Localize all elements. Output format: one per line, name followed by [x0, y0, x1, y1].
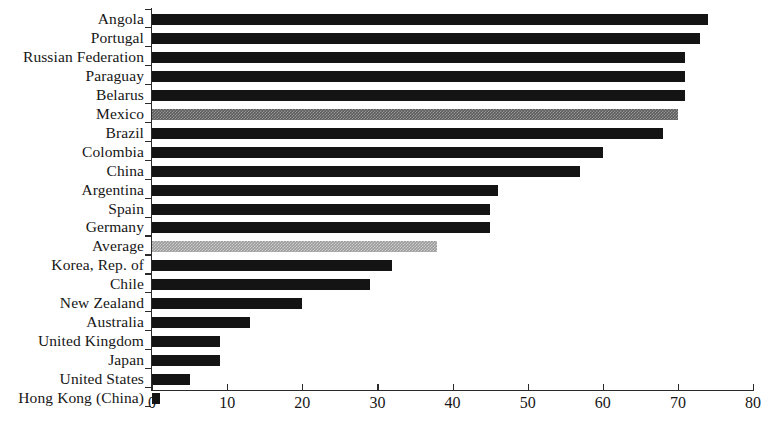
category-label: Brazil	[0, 125, 144, 140]
y-tick-mark	[145, 217, 151, 218]
y-tick-mark	[145, 141, 151, 142]
y-tick-mark	[145, 46, 151, 47]
y-tick-mark	[145, 273, 151, 274]
x-tick-label: 20	[282, 394, 322, 412]
plot-area	[152, 8, 753, 390]
category-label: Argentina	[0, 182, 144, 197]
bar-new-zealand	[152, 298, 302, 309]
x-tick-mark	[678, 384, 679, 391]
x-tick-label: 40	[433, 394, 473, 412]
x-tick-mark	[152, 384, 153, 391]
category-label: Paraguay	[0, 68, 144, 83]
category-label: United Kingdom	[0, 333, 144, 348]
y-tick-mark	[145, 65, 151, 66]
bar-angola	[152, 14, 708, 25]
bar-colombia	[152, 147, 603, 158]
x-tick-mark	[603, 384, 604, 391]
y-tick-mark	[145, 122, 151, 123]
bar-chile	[152, 279, 370, 290]
bar-belarus	[152, 90, 685, 101]
x-tick-label: 30	[357, 394, 397, 412]
category-label: Mexico	[0, 106, 144, 121]
y-tick-mark	[145, 235, 151, 236]
y-tick-mark	[145, 387, 151, 388]
category-label: New Zealand	[0, 295, 144, 310]
category-label: Japan	[0, 352, 144, 367]
x-tick-label: 0	[132, 394, 172, 412]
x-tick-label: 70	[658, 394, 698, 412]
x-tick-label: 60	[583, 394, 623, 412]
bar-argentina	[152, 185, 498, 196]
category-label: China	[0, 163, 144, 178]
x-tick-label: 50	[508, 394, 548, 412]
bar-korea-rep-of	[152, 260, 392, 271]
bar-russian-federation	[152, 52, 685, 63]
bar-china	[152, 166, 580, 177]
y-tick-mark	[145, 349, 151, 350]
x-tick-mark	[302, 384, 303, 391]
y-tick-mark	[145, 179, 151, 180]
y-axis-line	[151, 8, 152, 391]
bar-germany	[152, 222, 490, 233]
bar-mexico	[152, 109, 678, 120]
y-tick-mark	[145, 198, 151, 199]
y-tick-mark	[145, 254, 151, 255]
category-label: Korea, Rep. of	[0, 257, 144, 272]
category-label-axis: AngolaPortugalRussian FederationParaguay…	[0, 0, 148, 395]
y-tick-mark	[145, 84, 151, 85]
y-tick-mark	[145, 311, 151, 312]
bar-brazil	[152, 128, 663, 139]
category-label: Australia	[0, 314, 144, 329]
y-tick-mark	[145, 9, 151, 10]
category-label: Angola	[0, 11, 144, 26]
x-tick-mark	[753, 384, 754, 391]
bar-paraguay	[152, 71, 685, 82]
y-tick-mark	[145, 292, 151, 293]
category-label: Spain	[0, 201, 144, 216]
category-label: Germany	[0, 219, 144, 234]
x-tick-mark	[227, 384, 228, 391]
bar-chart: AngolaPortugalRussian FederationParaguay…	[0, 0, 775, 443]
bar-average	[152, 241, 437, 252]
x-tick-mark	[528, 384, 529, 391]
category-label: Chile	[0, 276, 144, 291]
y-tick-mark	[145, 103, 151, 104]
x-tick-mark	[453, 384, 454, 391]
bar-portugal	[152, 33, 700, 44]
x-tick-label: 10	[207, 394, 247, 412]
y-tick-mark	[145, 330, 151, 331]
category-label: Portugal	[0, 30, 144, 45]
category-label: Russian Federation	[0, 49, 144, 64]
y-tick-mark	[145, 160, 151, 161]
category-label: United States	[0, 371, 144, 386]
x-tick-mark	[377, 384, 378, 391]
bar-australia	[152, 317, 250, 328]
category-label: Colombia	[0, 144, 144, 159]
category-label: Average	[0, 238, 144, 253]
y-tick-mark	[145, 368, 151, 369]
y-tick-mark	[145, 27, 151, 28]
category-label: Hong Kong (China)	[0, 390, 144, 405]
x-tick-label: 80	[733, 394, 773, 412]
bar-united-states	[152, 374, 190, 385]
bar-spain	[152, 204, 490, 215]
bar-united-kingdom	[152, 336, 220, 347]
bar-japan	[152, 355, 220, 366]
category-label: Belarus	[0, 87, 144, 102]
